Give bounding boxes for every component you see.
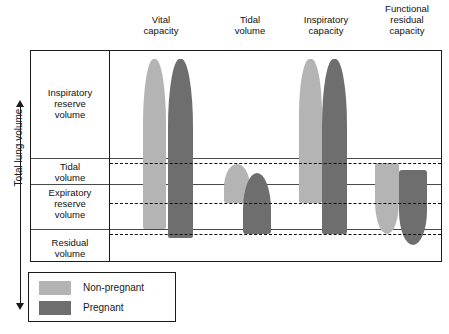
compartment-label-line2: volume (31, 248, 109, 259)
compartment-label-line3: volume (31, 109, 109, 120)
column-header-inspiratory-capacity: Inspiratory capacity (288, 14, 364, 36)
bar-functional-residual-capacity-non-pregnant (375, 163, 399, 234)
compartment-label-line1: Tidal (31, 161, 109, 172)
column-header-line2: capacity (124, 25, 198, 36)
dashed-line-expiratory-reserve-top (110, 203, 441, 204)
bar-inspiratory-capacity-pregnant (322, 59, 347, 234)
y-axis-title-group: Total lung volume (4, 50, 30, 262)
y-axis-title: Total lung volume (13, 53, 24, 243)
column-header-line2: residual (368, 14, 446, 25)
column-header-tidal-volume: Tidal volume (218, 14, 282, 36)
compartment-label-line2: reserve (31, 98, 109, 109)
compartment-label-line1: Residual (31, 237, 109, 248)
bar-inspiratory-capacity-non-pregnant (299, 59, 322, 203)
column-header-line1: Vital (124, 14, 198, 25)
compartment-label-expiratory-reserve-volume: Expiratory reserve volume (31, 187, 109, 220)
legend-swatch-non-pregnant (39, 281, 71, 295)
legend-label-pregnant: Pregnant (83, 301, 124, 315)
column-header-vital-capacity: Vital capacity (124, 14, 198, 36)
column-header-functional-residual-capacity: Functional residual capacity (368, 3, 446, 36)
dashed-line-residual-volume-top (110, 234, 441, 235)
column-header-line1: Functional (368, 3, 446, 14)
compartment-label-line3: volume (31, 209, 109, 220)
compartment-label-line2: reserve (31, 198, 109, 209)
legend-label-non-pregnant: Non-pregnant (83, 281, 144, 295)
label-plot-divider (109, 51, 110, 261)
compartment-label-line1: Expiratory (31, 187, 109, 198)
bar-vital-capacity-pregnant (168, 59, 193, 238)
compartment-label-inspiratory-reserve-volume: Inspiratory reserve volume (31, 87, 109, 120)
gridline-residual-volume-top (31, 229, 441, 230)
legend: Non-pregnant Pregnant (28, 272, 176, 322)
plot-area: Inspiratory reserve volume Tidal volume … (30, 50, 442, 262)
compartment-label-line2: volume (31, 172, 109, 183)
column-header-line2: volume (218, 25, 282, 36)
arrow-down-icon (16, 303, 24, 310)
column-header-line2: capacity (288, 25, 364, 36)
compartment-label-residual-volume: Residual volume (31, 237, 109, 259)
column-header-line1: Tidal (218, 14, 282, 25)
gridline-tidal-volume-top (31, 158, 441, 159)
dashed-line-tidal-volume-top (110, 163, 441, 164)
column-header-line1: Inspiratory (288, 14, 364, 25)
legend-swatch-pregnant (39, 301, 71, 315)
lung-volume-figure: Vital capacity Tidal volume Inspiratory … (0, 0, 449, 334)
compartment-label-line1: Inspiratory (31, 87, 109, 98)
column-header-line3: capacity (368, 25, 446, 36)
compartment-label-tidal-volume: Tidal volume (31, 161, 109, 183)
